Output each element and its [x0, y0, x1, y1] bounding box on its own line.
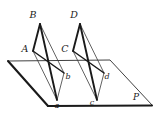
plane-edge-bottom	[48, 106, 152, 107]
plane-group	[8, 60, 152, 106]
label-b: b	[65, 72, 70, 81]
label-d: d	[104, 72, 109, 81]
label-A: A	[21, 43, 29, 54]
label-C: C	[61, 43, 69, 54]
label-c: c	[90, 98, 95, 107]
geometry-diagram: B D A C b d a c P	[0, 0, 160, 120]
geometry-canvas: B D A C b d a c P	[0, 0, 160, 120]
label-D: D	[69, 9, 78, 20]
label-B: B	[29, 9, 37, 20]
edge-B-A	[33, 24, 40, 51]
plane-P-surface	[8, 60, 152, 106]
label-a: a	[55, 101, 60, 110]
edge-D-C	[73, 24, 80, 51]
label-P: P	[132, 92, 140, 102]
